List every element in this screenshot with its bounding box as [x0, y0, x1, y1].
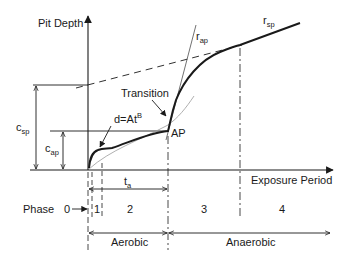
phase-row-label: Phase	[23, 203, 54, 215]
r-ap-label: rap	[196, 30, 208, 45]
y-axis-label: Pit Depth	[38, 17, 83, 29]
power-law-label: d=AtB	[114, 111, 142, 125]
aerobic-label: Aerobic	[111, 236, 149, 248]
pit-depth-diagram: Pit Depth Exposure Period csp cap rap rs…	[0, 0, 345, 258]
phase-4-label: 4	[279, 203, 285, 215]
ap-point-label: AP	[171, 127, 186, 139]
c-sp-label: csp	[16, 121, 29, 136]
t-a-label: ta	[124, 175, 132, 190]
phase-3-label: 3	[201, 203, 207, 215]
x-axis-label: Exposure Period	[251, 174, 332, 186]
power-law-pointer	[100, 126, 111, 147]
r-sp-dashed-asymptote	[76, 45, 242, 88]
phase-0-label: 0	[64, 203, 70, 215]
c-ap-label: cap	[45, 142, 59, 157]
phase-1-label: 1	[94, 203, 100, 215]
phase-2-label: 2	[127, 203, 133, 215]
transition-pointer	[152, 100, 166, 116]
transition-label: Transition	[121, 87, 169, 99]
r-sp-label: rsp	[263, 14, 275, 29]
anaerobic-label: Anaerobic	[226, 236, 276, 248]
